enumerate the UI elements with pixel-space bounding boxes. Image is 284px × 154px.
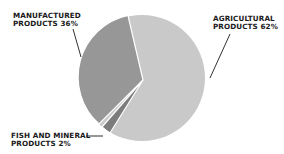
label-fish-mineral-line2: PRODUCTS 2% — [11, 139, 71, 148]
label-manufactured-line2: PRODUCTS 36% — [13, 19, 78, 28]
pie-chart: MANUFACTURED PRODUCTS 36% AGRICULTURAL P… — [0, 0, 284, 154]
label-agricultural-line2: PRODUCTS 62% — [213, 22, 278, 31]
leader-manufactured — [73, 29, 81, 57]
leader-agricultural — [210, 34, 230, 78]
